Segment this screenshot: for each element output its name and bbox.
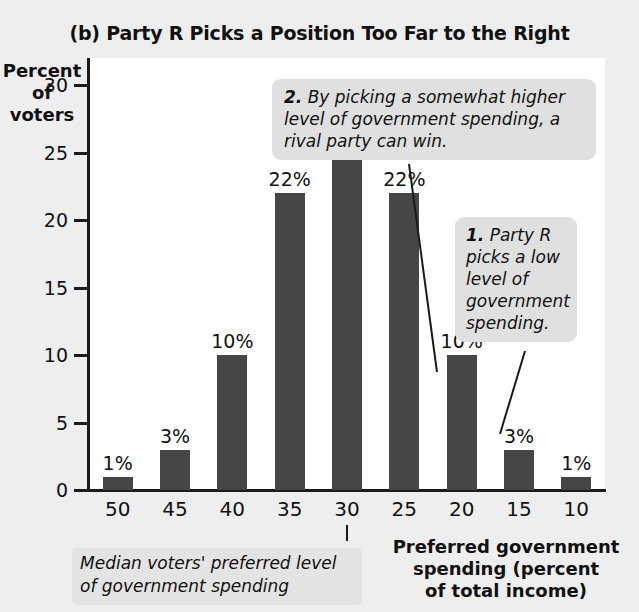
bar [103,477,133,491]
y-axis-tick [74,489,90,492]
y-axis-tick [74,84,90,87]
bar [389,193,419,490]
bar [332,112,362,490]
y-axis-tick [74,219,90,222]
y-axis-tick [74,354,90,357]
annotation-callout-2: 2. By picking a somewhat higher level of… [272,79,596,160]
median-voter-tick [346,525,348,541]
bar-group: 1% [103,58,133,490]
bar [275,193,305,490]
bar-value-label: 10% [211,330,253,352]
x-axis-tick-label: 30 [334,497,359,521]
y-axis-tick-label: 30 [0,74,68,96]
y-axis-tick-label: 0 [0,479,68,501]
annotation-callout-1-number: 1. [466,225,484,245]
annotation-callout-2-number: 2. [284,87,302,107]
y-axis-tick [74,152,90,155]
x-axis-tick-label: 20 [449,497,474,521]
y-axis-tick-label: 5 [0,412,68,434]
bar-value-label: 1% [103,452,133,474]
x-axis-tick-label: 50 [105,497,130,521]
y-axis-tick-label: 10 [0,344,68,366]
chart-title: (b) Party R Picks a Position Too Far to … [0,22,639,44]
x-axis-tick-label: 25 [392,497,417,521]
bar-value-label: 22% [383,168,425,190]
y-axis-tick [74,422,90,425]
chart-figure: (b) Party R Picks a Position Too Far to … [0,0,639,612]
x-axis-title-line-1: Preferred government [378,536,634,558]
bar-value-label: 3% [504,425,534,447]
bar-group: 3% [160,58,190,490]
bar [504,450,534,491]
x-axis-tick-label: 10 [564,497,589,521]
bar-value-label: 22% [269,168,311,190]
y-axis-tick-label: 20 [0,209,68,231]
bar [447,355,477,490]
annotation-callout-2-text: By picking a somewhat higher level of go… [284,87,565,151]
y-axis-tick [74,287,90,290]
bar [160,450,190,491]
bar-value-label: 3% [160,425,190,447]
x-axis-title: Preferred government spending (percent o… [378,536,634,602]
x-axis-tick-label: 35 [277,497,302,521]
y-axis-tick-label: 15 [0,277,68,299]
y-axis-title-line-3: voters [0,104,84,126]
y-axis-tick-label: 25 [0,142,68,164]
x-axis-title-line-3: of total income) [378,580,634,602]
x-axis-tick-label: 15 [506,497,531,521]
x-axis-tick-label: 40 [220,497,245,521]
bar-value-label: 1% [561,452,591,474]
annotation-callout-1: 1. Party R picks a low level of governme… [455,217,577,342]
median-voter-caption: Median voters' preferred level of govern… [72,548,362,605]
bar [217,355,247,490]
bar-group: 10% [217,58,247,490]
x-axis-title-line-2: spending (percent [378,558,634,580]
bar [561,477,591,491]
x-axis-tick-label: 45 [162,497,187,521]
